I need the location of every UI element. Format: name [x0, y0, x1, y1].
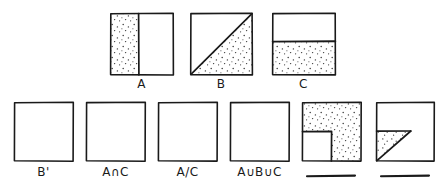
bottom-label-a-union-b-union-c: A∪B∪C [226, 165, 293, 179]
square-b [191, 13, 253, 75]
square-a-shaded-region [111, 14, 139, 75]
answer-square-a-union-b-union-c-outline [230, 102, 289, 161]
answer-square-a-intersect-c-outline [86, 102, 145, 161]
answer-blank-line-5 [307, 176, 355, 177]
answer-square-a-minus-c [158, 102, 217, 161]
answer-square-notched [302, 102, 361, 161]
square-a [111, 13, 174, 75]
answer-square-triangle [377, 102, 435, 161]
bottom-label-a-minus-c: A/C [158, 165, 217, 179]
answer-square-a-minus-c-outline [158, 102, 217, 161]
square-c-shaded-region [273, 42, 335, 75]
answer-square-a-union-b-union-c [230, 102, 289, 161]
answer-square-notched-cutout-edge [303, 131, 332, 161]
bottom-label-b-complement: B' [14, 165, 73, 179]
answer-square-a-intersect-c [86, 102, 145, 161]
square-c [273, 13, 336, 75]
top-label-c: C [272, 77, 335, 91]
answer-square-b-complement [14, 102, 73, 161]
bottom-label-a-intersect-c: A∩C [86, 165, 145, 179]
top-label-b: B [190, 77, 252, 91]
worksheet-canvas: A B C B' A∩C A/C A∪B∪C Set operation Ven… [0, 0, 446, 194]
answer-blank-line-6 [381, 176, 429, 177]
top-label-a: A [110, 77, 173, 91]
answer-square-b-complement-outline [14, 102, 73, 161]
